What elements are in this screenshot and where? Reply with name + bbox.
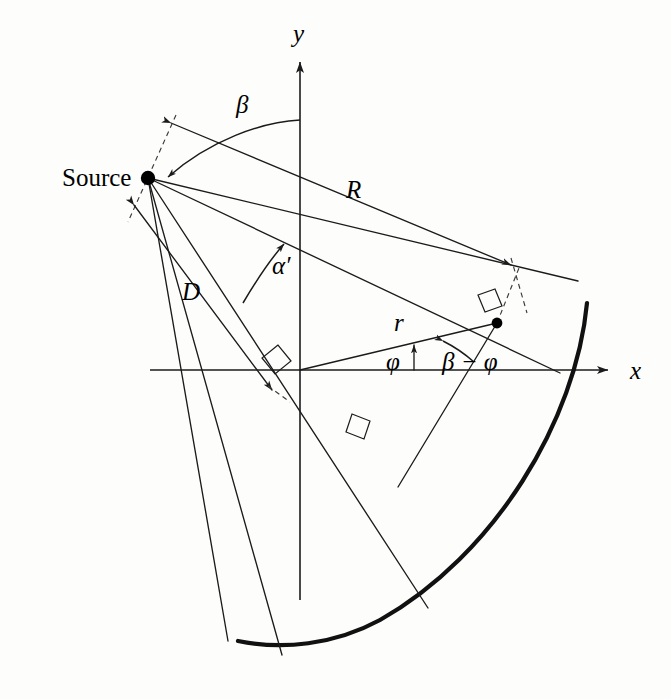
phi-label: φ — [386, 348, 400, 375]
y-axis-label: y — [290, 20, 305, 47]
detector-arc-path — [238, 303, 587, 645]
fan-ray-left-edge — [148, 178, 228, 641]
geometry-diagram: Source y x β R α′ D r φ β − φ — [0, 0, 671, 699]
right-angle-marker-lower — [346, 414, 370, 439]
figure-root: Source y x β R α′ D r φ β − φ — [0, 0, 671, 699]
R-dimension-line — [171, 123, 511, 265]
fan-ray-group — [148, 178, 578, 655]
source-point-dot — [141, 171, 155, 185]
fan-ray-right-edge — [148, 178, 560, 373]
detector-cell-dashed-normal — [497, 268, 519, 323]
fan-ray-through-origin — [148, 178, 428, 608]
D-label: D — [181, 278, 200, 305]
beta-label: β — [235, 91, 249, 118]
R-label: R — [345, 176, 361, 203]
fan-ray-inner-left — [148, 178, 282, 655]
D-dimension-line — [134, 205, 272, 390]
detector-array-arc — [238, 303, 587, 645]
beta-minus-phi-label: β − φ — [441, 348, 498, 375]
x-axis-label: x — [629, 357, 641, 384]
detector-cell-dot — [492, 318, 503, 329]
right-angle-marker-detector — [478, 289, 502, 312]
label-group: Source y x β R α′ D r φ β − φ — [62, 20, 641, 384]
source-label: Source — [62, 164, 131, 191]
alpha-prime-label: α′ — [272, 252, 291, 279]
fan-ray-to-detector-cell — [148, 178, 578, 281]
D-extension-dashed — [268, 386, 290, 402]
r-label: r — [394, 309, 404, 336]
